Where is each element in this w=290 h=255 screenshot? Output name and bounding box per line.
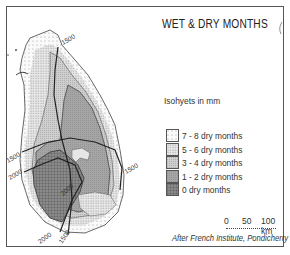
legend-item: 0 dry months	[166, 183, 251, 197]
legend-label: 0 dry months	[182, 184, 230, 195]
legend-item: 5 - 6 dry months	[166, 143, 251, 157]
swatch-crosshatch	[166, 183, 179, 196]
swatch-light-stipple	[166, 156, 179, 169]
legend-label: 3 - 4 dry months	[182, 157, 242, 168]
legend: 7 - 8 dry months 5 - 6 dry months 3 - 4 …	[166, 129, 251, 197]
legend-item: 7 - 8 dry months	[166, 129, 251, 143]
scale-line	[226, 228, 276, 229]
legend-label: 7 - 8 dry months	[182, 130, 242, 141]
contour-label-west-upper: 1500	[5, 150, 21, 163]
swatch-medium-gray	[166, 170, 179, 183]
contour-label-south-a: 2000	[37, 231, 53, 245]
scale-tick-50: 50	[242, 216, 251, 226]
source-credit: After French Institute, Pondicherry	[172, 233, 288, 243]
map-title: WET & DRY MONTHS	[162, 17, 268, 31]
contour-label-east: 1500	[123, 161, 139, 174]
islet	[15, 49, 17, 51]
swatch-dense-dots	[166, 143, 179, 156]
legend-label: 5 - 6 dry months	[182, 144, 242, 155]
swatch-sparse-dots	[166, 129, 179, 142]
legend-label: 1 - 2 dry months	[182, 171, 242, 182]
contour-label-north: 1500	[60, 32, 76, 45]
scale-tick-0: 0	[224, 216, 229, 226]
legend-item: 1 - 2 dry months	[166, 170, 251, 184]
islet	[7, 54, 9, 56]
edge-mark	[280, 22, 282, 34]
isohyet-caption: Isohyets in mm	[164, 95, 220, 106]
legend-item: 3 - 4 dry months	[166, 156, 251, 170]
